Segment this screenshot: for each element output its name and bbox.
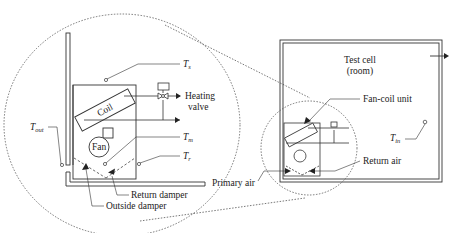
return-air-label: Return air [363, 156, 402, 166]
tin-sensor [423, 120, 427, 124]
fcu-leader [310, 99, 360, 120]
return-air-arrow-icon [108, 168, 117, 176]
primary-air-arrow-icon [285, 168, 291, 174]
return-damper-label: Return damper [131, 190, 189, 200]
fan-coil-unit-small [284, 122, 349, 176]
return-pipe-arrow-icon [175, 117, 180, 123]
fan-coil-diagram: Coil Heating valve Fan [0, 0, 465, 233]
tr-label: Tr [183, 151, 191, 162]
heating-valve-icon [158, 83, 169, 99]
heating-valve-label: Heating [185, 91, 215, 101]
test-cell-label: Test cell [344, 55, 376, 65]
coil: Coil [75, 89, 135, 131]
fan-coil-unit-label: Fan-coil unit [363, 94, 412, 104]
primary-air-label: Primary air [212, 178, 256, 188]
magnified-area-circle [261, 101, 357, 195]
fan-label: Fan [92, 142, 107, 152]
room-label: (room) [347, 66, 373, 77]
exhaust-arrow-icon [444, 53, 449, 59]
outside-damper-label: Outside damper [106, 201, 167, 211]
tm-label: Tm [183, 132, 193, 143]
tin-label: Tin [390, 133, 400, 144]
return-air-arrow-icon-small [309, 168, 315, 174]
heating-valve-label-2: valve [188, 102, 209, 112]
ts-label: Ts [183, 59, 191, 70]
supply-arrow-icon [176, 93, 181, 99]
tout-label: Tout [30, 122, 44, 133]
detail-wall [66, 33, 205, 186]
